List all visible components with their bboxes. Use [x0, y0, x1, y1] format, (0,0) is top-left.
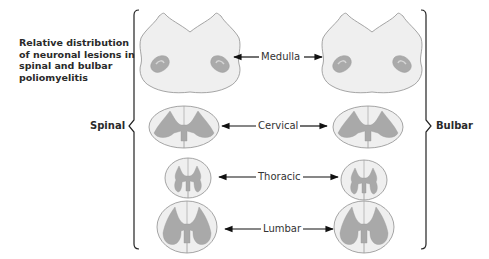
left-thoracic-section: [165, 158, 211, 198]
right-lumbar-section: [334, 201, 394, 253]
right-medulla-section: [322, 13, 422, 93]
cervical-label: Cervical: [256, 120, 300, 132]
medulla-label: Medulla: [259, 51, 302, 63]
spinal-bracket: [129, 10, 139, 249]
spinal-label: Spinal: [90, 120, 125, 131]
right-thoracic-section: [341, 160, 387, 200]
bulbar-label: Bulbar: [436, 120, 473, 131]
thoracic-label: Thoracic: [256, 171, 303, 183]
bulbar-bracket: [421, 10, 431, 249]
left-cervical-section: [149, 106, 219, 148]
left-lumbar-section: [157, 201, 217, 253]
left-medulla-section: [140, 13, 240, 93]
diagram-canvas: [0, 0, 489, 259]
right-cervical-section: [333, 106, 403, 148]
lumbar-label: Lumbar: [261, 223, 303, 235]
